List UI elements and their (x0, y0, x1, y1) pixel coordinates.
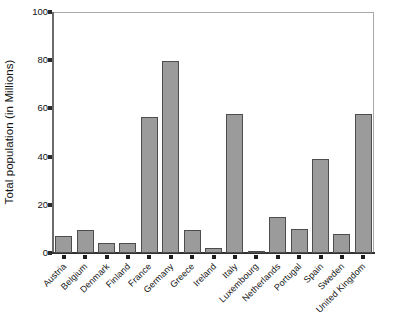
bar (355, 114, 372, 253)
x-axis-tick-mark (276, 255, 280, 259)
bar (141, 117, 158, 253)
x-axis-tick-label: United Kingdom (315, 262, 368, 315)
x-axis-tick-label: Sweden (316, 262, 346, 292)
x-axis-tick-mark (169, 255, 173, 259)
x-axis-tick-mark (190, 255, 194, 259)
x-axis-tick-mark (62, 255, 66, 259)
y-axis-tick-label: 40 (22, 152, 48, 162)
y-axis-title: Total population (in Millions) (0, 0, 18, 264)
x-axis-tick-mark (147, 255, 151, 259)
x-axis-tick-mark (233, 255, 237, 259)
bar (226, 114, 243, 253)
bar (333, 234, 350, 253)
x-axis-tick-mark (105, 255, 109, 259)
bar (205, 248, 222, 253)
x-axis-tick-label: Greece (169, 262, 197, 290)
x-axis-tick-label: Luxembourg (218, 262, 260, 304)
y-axis-tick-label: 60 (22, 103, 48, 113)
x-axis-tick-mark (297, 255, 301, 259)
x-axis-tick-label: Finland (105, 262, 133, 290)
y-axis-tick-labels: 020406080100 (20, 0, 48, 336)
bar (162, 61, 179, 253)
y-axis-tick-label: 100 (22, 7, 48, 17)
bar (248, 251, 265, 253)
x-axis-tick-label: Denmark (78, 262, 111, 295)
x-axis-tick-label: Ireland (192, 262, 218, 288)
x-axis-tick-label: Italy (221, 262, 239, 280)
bar-series (53, 12, 374, 253)
y-axis-tick-label: 0 (22, 248, 48, 258)
x-axis-tick-mark (126, 255, 130, 259)
x-axis-tick-label: Spain (302, 262, 325, 285)
y-axis-tick-label: 80 (22, 55, 48, 65)
bar-chart: Total population (in Millions) 020406080… (0, 0, 404, 336)
y-axis-tick-label: 20 (22, 200, 48, 210)
x-axis-tick-mark (254, 255, 258, 259)
x-axis-tick-mark (212, 255, 216, 259)
x-axis-tick-label: France (127, 262, 154, 289)
bar (77, 230, 94, 253)
x-axis-tick-mark (83, 255, 87, 259)
x-axis-tick-label: Netherlands (241, 262, 282, 303)
x-axis-tick-mark (340, 255, 344, 259)
x-axis-tick-mark (361, 255, 365, 259)
x-axis-tick-label: Belgium (60, 262, 90, 292)
bar (55, 236, 72, 253)
bar (269, 217, 286, 253)
x-axis-tick-label: Germany (142, 262, 175, 295)
bar (119, 243, 136, 253)
x-axis-tick-mark (319, 255, 323, 259)
x-axis-tick-label: Portugal (273, 262, 304, 293)
bar (184, 230, 201, 253)
bar (291, 229, 308, 253)
bar (312, 159, 329, 253)
bar (98, 243, 115, 253)
